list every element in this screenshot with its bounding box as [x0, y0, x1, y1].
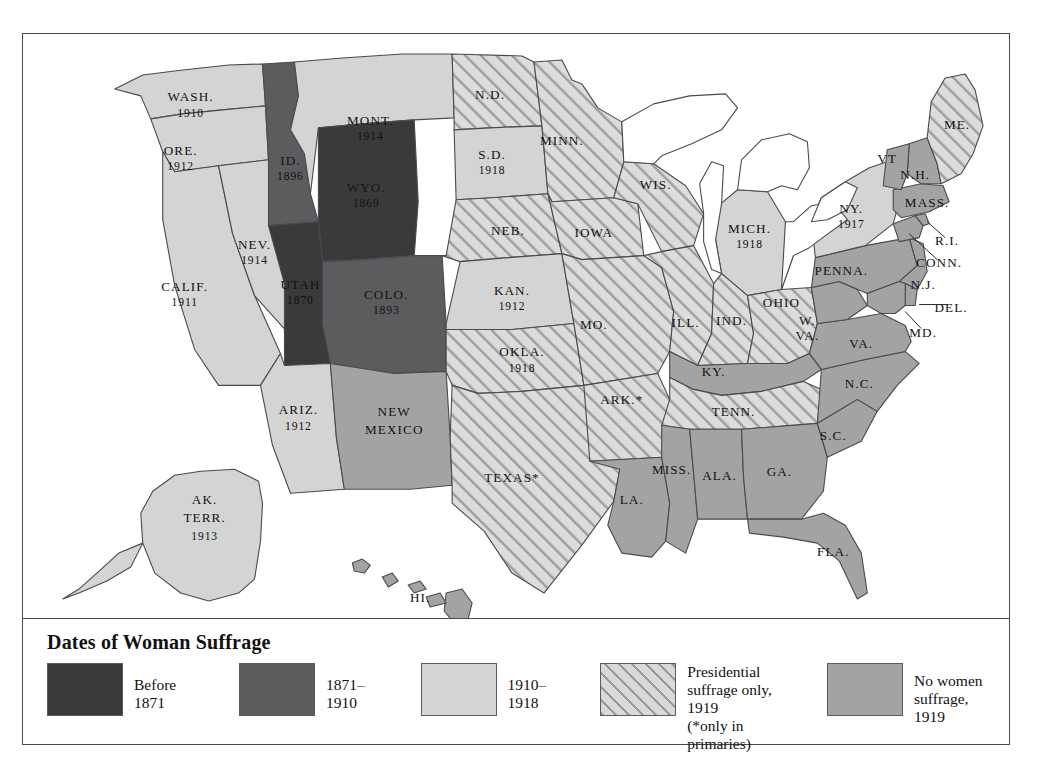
legend-label-1910-1918: 1910–1918 — [508, 662, 569, 712]
legend-item-presidential: Presidential suffrage only, 1919 (*only … — [600, 662, 799, 753]
state-colo — [322, 256, 446, 374]
state-ark — [584, 373, 670, 461]
state-nd — [452, 54, 542, 130]
legend-panel: Dates of Woman Suffrage Before 1871 1871… — [23, 619, 1009, 744]
state-ga — [742, 423, 828, 519]
leader-line-ri — [927, 222, 945, 238]
legend-swatch-presidential — [600, 663, 676, 716]
state-minn — [534, 60, 624, 202]
map-panel: WASH. 1910 ORE. 1912 CALIF. 1911 NEV. 19… — [23, 34, 1009, 619]
legend-swatch-1910-1918 — [421, 663, 497, 716]
legend-items: Before 1871 1871–1910 1910–1918 Presiden… — [47, 662, 993, 753]
state-okla — [446, 324, 584, 394]
state-iowa — [548, 194, 644, 260]
state-wyo — [318, 120, 418, 262]
state-nm — [330, 363, 452, 489]
great-lakes-water — [622, 94, 738, 164]
legend-swatch-1871-1910 — [239, 663, 315, 716]
lake-huron-erie — [738, 134, 810, 192]
state-sd — [454, 126, 548, 200]
legend-item-1871-1910: 1871–1910 — [239, 662, 387, 716]
state-neb — [442, 194, 562, 262]
legend-label-before-1871: Before 1871 — [134, 662, 201, 712]
legend-item-before-1871: Before 1871 — [47, 662, 201, 716]
legend-swatch-before-1871 — [47, 663, 123, 716]
us-suffrage-map: WASH. 1910 ORE. 1912 CALIF. 1911 NEV. 19… — [23, 34, 1009, 618]
label-del: DEL. — [934, 300, 967, 315]
state-ala — [690, 429, 748, 519]
hawaii-islands — [352, 559, 472, 618]
leader-line-md — [905, 312, 921, 329]
legend-item-1910-1918: 1910–1918 — [421, 662, 569, 716]
map-figure: WASH. 1910 ORE. 1912 CALIF. 1911 NEV. 19… — [22, 33, 1010, 745]
legend-label-no-suffrage: No women suffrage, 1919 — [914, 662, 993, 726]
legend-item-no-suffrage: No women suffrage, 1919 — [827, 662, 993, 726]
state-ohio — [748, 288, 818, 364]
state-alaska — [63, 469, 263, 601]
label-md: MD. — [909, 325, 937, 340]
legend-label-1871-1910: 1871–1910 — [326, 662, 387, 712]
legend-label-presidential: Presidential suffrage only, 1919 (*only … — [687, 662, 799, 753]
label-ri: R.I. — [935, 233, 959, 248]
legend-title: Dates of Woman Suffrage — [47, 631, 993, 654]
state-kan — [446, 254, 574, 330]
legend-swatch-no-suffrage — [827, 663, 903, 716]
state-fla — [748, 513, 868, 599]
state-vt — [883, 144, 909, 190]
